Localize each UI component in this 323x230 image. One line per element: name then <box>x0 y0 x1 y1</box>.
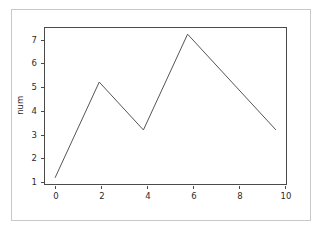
chart-plot-canvas <box>0 0 323 230</box>
data-series-line <box>55 34 276 178</box>
